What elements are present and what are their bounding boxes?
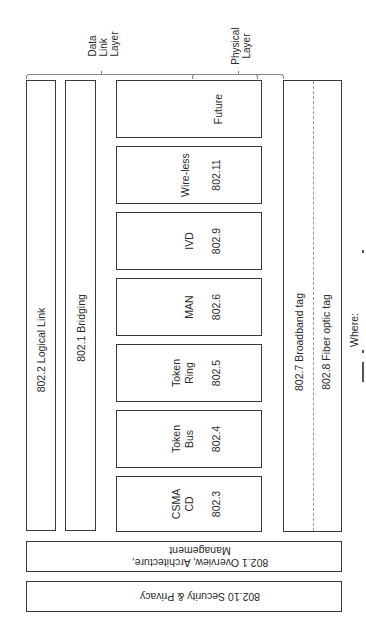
clipped-mark xyxy=(362,362,364,382)
ivd-number: 802.9 xyxy=(210,228,223,254)
future-label: Future xyxy=(211,94,224,124)
token-bus-label-line2: Bus xyxy=(183,425,196,453)
security-label: 802.10 Security & Privacy xyxy=(140,591,260,603)
footnote-where: Where: xyxy=(344,300,364,360)
overview-management-bar: 802.1 Overview, Architecture, Management xyxy=(26,541,342,572)
where-label: Where: xyxy=(348,313,360,347)
mac-box-wireless: Wire-less 802.11 xyxy=(116,146,262,204)
csma-cd-label-line2: CD xyxy=(183,489,196,519)
mac-box-man: MAN 802.6 xyxy=(116,278,262,336)
token-ring-number: 802.5 xyxy=(210,360,223,386)
data-link-word-3: Layer xyxy=(109,31,120,56)
physical-layer-label: Physical Layer xyxy=(226,18,256,74)
mac-box-ivd: IVD 802.9 xyxy=(116,212,262,270)
clipped-mark xyxy=(362,250,364,253)
ivd-label: IVD xyxy=(183,232,196,250)
data-link-word-1: Data xyxy=(87,31,98,56)
bridging-label: 802.1 Bridging xyxy=(74,294,87,362)
token-bus-number: 802.4 xyxy=(210,426,223,452)
mac-box-csma-cd: CSMA CD 802.3 xyxy=(116,476,262,532)
logical-link-label: 802.2 Logical Link xyxy=(35,308,48,393)
wireless-number: 802.11 xyxy=(210,159,223,190)
csma-cd-label: CSMA CD xyxy=(170,489,196,519)
broadband-tag-label: 802.7 Broadband tag xyxy=(292,293,305,391)
csma-cd-number: 802.3 xyxy=(210,491,223,517)
man-label: MAN xyxy=(183,295,196,318)
overview-label: 802.1 Overview, Architecture, Management xyxy=(131,545,268,569)
token-bus-label: Token Bus xyxy=(170,425,196,453)
logical-link-bar: 802.2 Logical Link xyxy=(26,80,56,531)
csma-cd-label-line1: CSMA xyxy=(170,489,183,519)
physical-word-1: Physical xyxy=(230,27,241,64)
mac-box-token-bus: Token Bus 802.4 xyxy=(116,410,262,468)
physical-layer-brace xyxy=(192,74,284,79)
mac-box-future: Future xyxy=(116,80,262,138)
token-ring-label-line1: Token xyxy=(170,359,183,387)
data-link-word-2: Link xyxy=(98,31,109,56)
overview-line1: 802.1 Overview, Architecture, xyxy=(131,557,268,569)
data-link-layer-label: Data Link Layer xyxy=(83,16,123,72)
token-bus-label-line1: Token xyxy=(170,425,183,453)
clipped-mark xyxy=(362,350,364,353)
security-privacy-bar: 802.10 Security & Privacy xyxy=(26,581,342,612)
physical-word-2: Layer xyxy=(241,27,252,64)
fiber-optic-tag-label: 802.8 Fiber optic tag xyxy=(320,294,333,390)
wireless-label: Wire-less xyxy=(178,153,191,197)
overview-line2: Management xyxy=(131,545,268,557)
token-ring-label: Token Ring xyxy=(170,359,196,387)
physical-tags-box: 802.7 Broadband tag 802.8 Fiber optic ta… xyxy=(283,80,342,532)
man-number: 802.6 xyxy=(210,294,223,320)
bridging-bar: 802.1 Bridging xyxy=(65,80,96,531)
mac-box-token-ring: Token Ring 802.5 xyxy=(116,344,262,402)
tag-divider xyxy=(313,81,314,531)
token-ring-label-line2: Ring xyxy=(183,359,196,387)
